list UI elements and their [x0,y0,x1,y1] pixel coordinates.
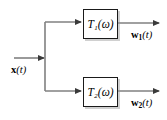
input-signal-label: x(t) [11,64,26,75]
input-signal-argument: (t) [16,64,26,75]
output-w1-label: w1(t) [131,29,152,42]
output-w1-symbol: w [131,29,139,40]
output-w2-argument: (t) [142,97,152,108]
output-w1-argument: (t) [142,29,152,40]
block-diagram-canvas: T₁(ω) T₂(ω) x(t) w1(t) w2(t) [0,0,167,120]
block-t2: T₂(ω) [83,77,118,107]
output-w2-symbol: w [131,97,139,108]
output-w2-label: w2(t) [131,97,152,110]
block-t1-label: T₁(ω) [87,18,113,30]
block-t1: T₁(ω) [83,9,118,39]
block-t2-label: T₂(ω) [87,86,113,98]
